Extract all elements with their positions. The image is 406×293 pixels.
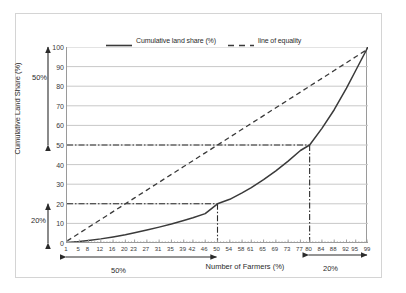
annotation-label-y-lower: 20% bbox=[31, 216, 46, 225]
legend-entry-cumulative-land-share: Cumulative land share (%) bbox=[106, 33, 216, 47]
x-tick-label-20: 20 bbox=[121, 246, 128, 252]
y-tick-label-90: 90 bbox=[44, 63, 64, 70]
x-axis-title: Number of Farmers (%) bbox=[185, 262, 305, 271]
x-tick-label-92: 92 bbox=[342, 246, 349, 252]
reference-lines bbox=[67, 145, 310, 243]
x-tick-label-69: 69 bbox=[272, 246, 279, 252]
lorenz-curve-figure: Cumulative land share (%) line of equali… bbox=[0, 0, 406, 293]
x-tick-label-12: 12 bbox=[96, 246, 103, 252]
plot-canvas bbox=[67, 47, 368, 243]
x-tick-label-16: 16 bbox=[109, 246, 116, 252]
y-axis-title: Cumulative Land Share (%) bbox=[13, 44, 22, 174]
y-tick-label-30: 30 bbox=[44, 181, 64, 188]
x-tick-label-46: 46 bbox=[201, 246, 208, 252]
x-tick-label-50: 50 bbox=[213, 246, 220, 252]
x-tick-label-39: 39 bbox=[179, 246, 186, 252]
x-tick-label-35: 35 bbox=[167, 246, 174, 252]
x-tick-label-58: 58 bbox=[238, 246, 245, 252]
y-tick-label-20: 20 bbox=[44, 200, 64, 207]
y-tick-label-100: 100 bbox=[44, 44, 64, 51]
x-tick-label-54: 54 bbox=[225, 246, 232, 252]
x-tick-label-5: 5 bbox=[77, 246, 80, 252]
y-tick-label-40: 40 bbox=[44, 161, 64, 168]
x-tick-label-42: 42 bbox=[189, 246, 196, 252]
x-tick-label-61: 61 bbox=[247, 246, 254, 252]
y-tick-label-10: 10 bbox=[44, 220, 64, 227]
chart-legend: Cumulative land share (%) line of equali… bbox=[100, 33, 345, 47]
y-tick-label-80: 80 bbox=[44, 83, 64, 90]
x-tick-label-8: 8 bbox=[86, 246, 89, 252]
x-tick-label-80: 80 bbox=[305, 246, 312, 252]
legend-swatch-dashed bbox=[228, 36, 254, 45]
x-tick-label-1: 1 bbox=[64, 246, 67, 252]
x-tick-label-27: 27 bbox=[143, 246, 150, 252]
legend-label-cumulative-land-share: Cumulative land share (%) bbox=[136, 37, 216, 44]
x-tick-label-88: 88 bbox=[330, 246, 337, 252]
legend-label-line-of-equality: line of equality bbox=[258, 37, 301, 44]
x-tick-label-31: 31 bbox=[155, 246, 162, 252]
x-axis-tick-labels: 1581216202327313539424650545861656973778… bbox=[66, 246, 367, 256]
x-tick-label-23: 23 bbox=[130, 246, 137, 252]
annotation-label-x-left: 50% bbox=[111, 266, 126, 275]
x-tick-label-73: 73 bbox=[284, 246, 291, 252]
y-tick-label-70: 70 bbox=[44, 102, 64, 109]
y-tick-label-0: 0 bbox=[44, 240, 64, 247]
x-tick-label-65: 65 bbox=[259, 246, 266, 252]
x-tick-label-95: 95 bbox=[351, 246, 358, 252]
x-tick-label-84: 84 bbox=[318, 246, 325, 252]
y-tick-label-50: 50 bbox=[44, 142, 64, 149]
legend-swatch-solid bbox=[106, 36, 132, 45]
x-tick-label-99: 99 bbox=[364, 246, 371, 252]
plot-area bbox=[66, 47, 367, 243]
y-tick-label-60: 60 bbox=[44, 122, 64, 129]
annotation-label-y-upper: 50% bbox=[32, 73, 47, 82]
x-tick-label-77: 77 bbox=[296, 246, 303, 252]
legend-entry-line-of-equality: line of equality bbox=[228, 33, 301, 47]
annotation-label-x-right: 20% bbox=[323, 264, 338, 273]
